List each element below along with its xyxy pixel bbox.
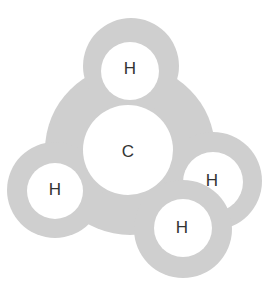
h-left-label: H <box>49 180 61 199</box>
h-right-back-label: H <box>206 171 218 190</box>
h-top-label: H <box>124 59 136 78</box>
h-front-atom: H <box>134 180 232 278</box>
methane-diagram: C H H H H <box>0 0 274 282</box>
h-front-label: H <box>176 218 188 237</box>
carbon-label: C <box>122 142 134 161</box>
